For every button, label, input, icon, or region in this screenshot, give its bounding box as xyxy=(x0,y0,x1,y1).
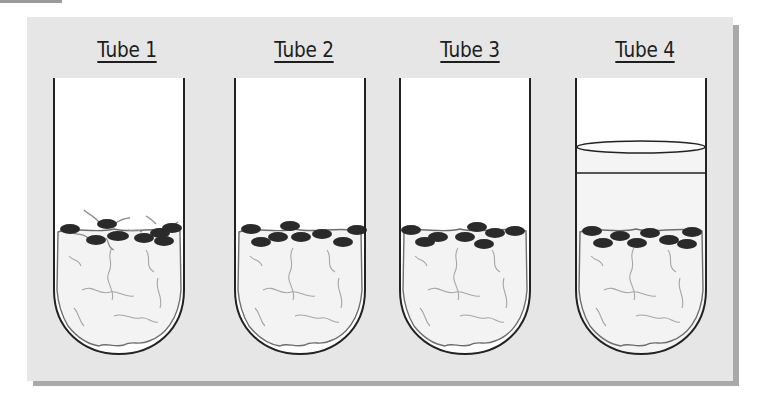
tube-1 xyxy=(54,78,184,354)
tube-3 xyxy=(400,78,530,354)
tube-2 xyxy=(235,78,367,354)
cotton-wad-icon xyxy=(57,229,181,346)
liquid-surface-icon xyxy=(577,141,705,153)
tube-4 xyxy=(576,78,706,354)
tubes-illustration xyxy=(0,0,759,397)
